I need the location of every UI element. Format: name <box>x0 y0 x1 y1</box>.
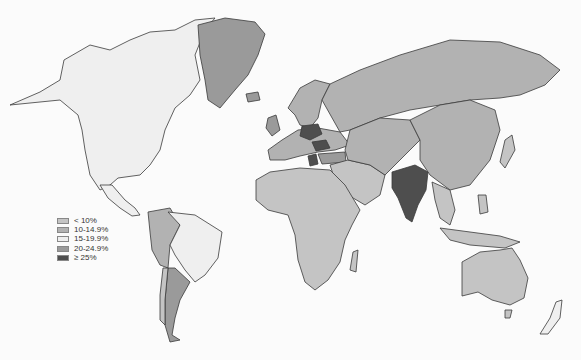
legend-label: < 10% <box>74 217 97 225</box>
legend-swatch <box>57 236 69 242</box>
region-indonesia <box>440 228 520 248</box>
map-legend: < 10% 10-14.9% 15-19.9% 20-24.9% ≥ 25% <box>57 216 108 263</box>
legend-item: 10-14.9% <box>57 225 108 234</box>
legend-label: ≥ 25% <box>74 254 97 262</box>
region-tasmania <box>505 310 512 318</box>
legend-item: ≥ 25% <box>57 254 108 263</box>
legend-label: 10-14.9% <box>74 226 108 234</box>
legend-swatch <box>57 227 69 233</box>
legend-swatch <box>57 218 69 224</box>
region-argentina <box>165 268 190 342</box>
legend-item: < 10% <box>57 216 108 225</box>
world-map-figure: < 10% 10-14.9% 15-19.9% 20-24.9% ≥ 25% <box>0 0 581 360</box>
region-united-kingdom <box>266 115 280 136</box>
legend-item: 15-19.9% <box>57 235 108 244</box>
region-india <box>392 165 428 222</box>
legend-swatch <box>57 246 69 252</box>
region-iceland <box>246 92 260 102</box>
region-north-america <box>10 18 215 190</box>
world-map <box>0 0 581 360</box>
region-africa <box>256 168 360 290</box>
region-central-america <box>100 185 140 216</box>
region-scandinavia <box>288 80 330 128</box>
region-philippines <box>478 195 488 214</box>
region-madagascar <box>350 250 358 272</box>
region-australia <box>462 248 528 305</box>
region-greece <box>308 154 318 166</box>
region-japan <box>500 135 515 168</box>
legend-label: 15-19.9% <box>74 235 108 243</box>
legend-label: 20-24.9% <box>74 245 108 253</box>
legend-swatch <box>57 255 69 261</box>
legend-item: 20-24.9% <box>57 244 108 253</box>
region-new-zealand <box>540 300 562 334</box>
